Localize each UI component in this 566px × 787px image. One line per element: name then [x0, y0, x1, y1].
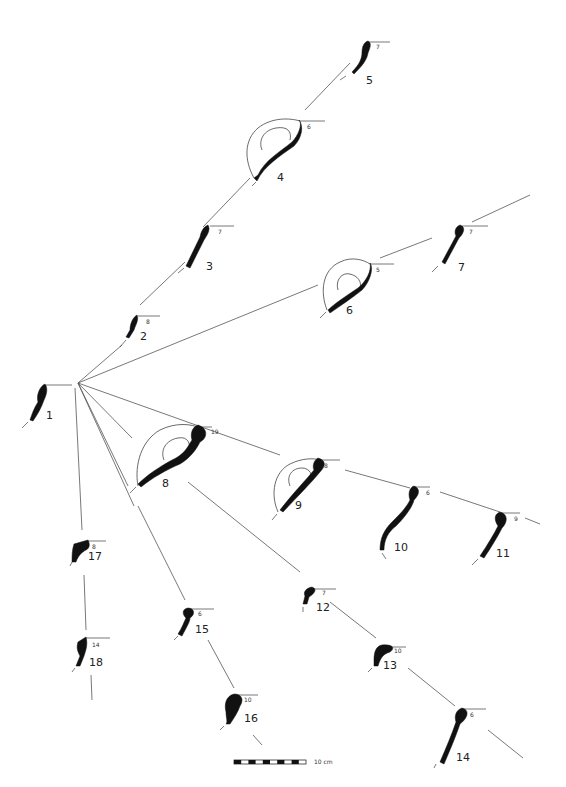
diameter-label-17: 8: [92, 544, 96, 550]
diameter-label-5: 7: [376, 44, 380, 50]
profile-label-13: 13: [383, 660, 397, 671]
profile-label-18: 18: [89, 657, 103, 668]
profile-label-16: 16: [244, 713, 258, 724]
profile-label-7: 7: [458, 262, 465, 273]
diameter-label-16: 10: [244, 697, 252, 703]
diameter-label-12: 7: [322, 590, 326, 596]
profile-label-3: 3: [206, 261, 213, 272]
profile-label-1: 1: [46, 410, 53, 421]
profile-label-8: 8: [162, 478, 169, 489]
diameter-label-11: 9: [514, 516, 518, 522]
profile-label-5: 5: [366, 75, 373, 86]
diameter-label-14: 6: [470, 712, 474, 718]
profile-6: [320, 259, 394, 318]
profile-label-10: 10: [394, 542, 408, 553]
diameter-label-2: 8: [146, 319, 150, 325]
diameter-label-10: 6: [426, 490, 430, 496]
profile-label-6: 6: [346, 305, 353, 316]
profile-label-14: 14: [456, 752, 470, 763]
diameter-label-3: 7: [218, 229, 222, 235]
profile-label-2: 2: [140, 331, 147, 342]
profile-label-11: 11: [496, 548, 510, 559]
profile-5: [340, 41, 390, 80]
diameter-label-13: 10: [394, 648, 402, 654]
profile-label-12: 12: [316, 602, 330, 613]
diameter-label-9: 8: [324, 463, 328, 469]
diameter-label-7: 7: [469, 229, 473, 235]
profile-9: [272, 458, 340, 520]
diameter-label-18: 14: [92, 642, 100, 648]
profile-label-15: 15: [195, 624, 209, 635]
profile-label-17: 17: [88, 551, 102, 562]
connection-lines: [75, 63, 540, 758]
profile-8: [130, 425, 212, 494]
profile-label-9: 9: [295, 500, 302, 511]
diameter-label-8: 19: [211, 429, 219, 435]
profile-4: [247, 119, 325, 186]
diagram-canvas: [0, 0, 566, 787]
scale-bar-label: 10 cm: [314, 758, 333, 765]
diameter-label-6: 5: [376, 267, 380, 273]
scale-bar: [234, 760, 306, 764]
diameter-label-4: 6: [307, 124, 311, 130]
diameter-label-15: 6: [198, 611, 202, 617]
profile-label-4: 4: [277, 172, 284, 183]
seriation-diagram: 1 2 8 3 7 4 6 5 7 6 5 7 7 8 19 9 8 10 6 …: [0, 0, 566, 787]
